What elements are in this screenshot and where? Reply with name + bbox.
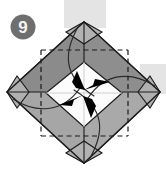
step-number-badge: 9: [11, 15, 36, 40]
origami-step-diagram: 9: [0, 0, 166, 174]
diagram-page: 9: [0, 0, 166, 174]
step-badge-label: 9: [18, 18, 27, 37]
